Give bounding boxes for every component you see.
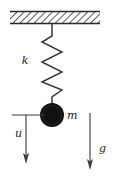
fixed-support — [10, 11, 100, 24]
ceiling-hatch-fill — [10, 11, 100, 24]
mass-label: m — [67, 109, 77, 122]
gravity-g — [87, 113, 93, 170]
mass-spring-diagram: k m u g — [0, 0, 116, 178]
displacement-label: u — [15, 127, 22, 140]
gravity-label: g — [99, 142, 106, 155]
diagram-canvas: k m u g — [0, 0, 116, 178]
spring — [42, 24, 62, 105]
spring-zigzag — [42, 24, 62, 105]
spring-constant-label: k — [22, 54, 29, 67]
